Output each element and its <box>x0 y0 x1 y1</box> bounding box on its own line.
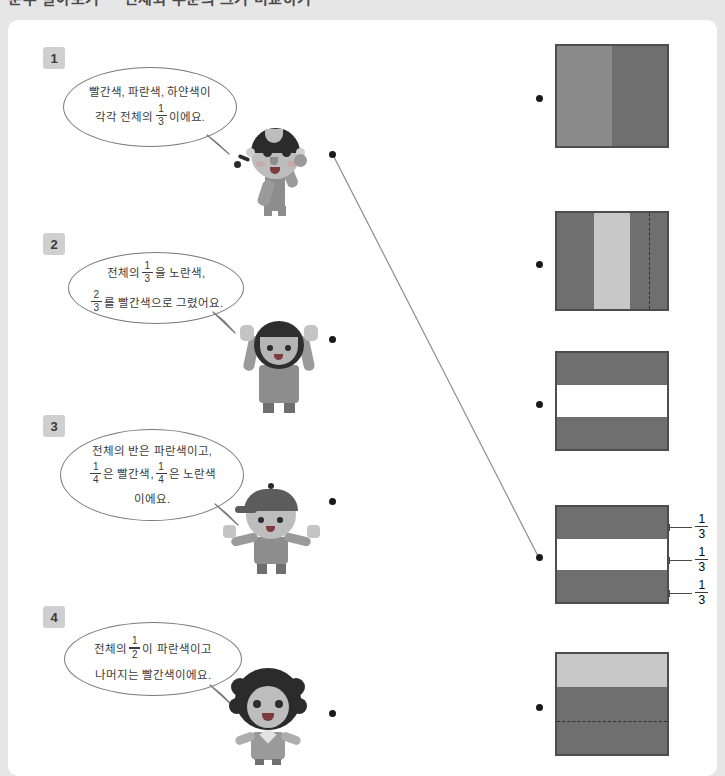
fraction-one-fourth-2: 1 4 <box>156 462 167 485</box>
speech-bubble-1-tail <box>205 133 235 157</box>
speech-bubble-2-line-2: 2 3 를 빨간색으로 그렸어요. <box>89 291 224 314</box>
figure-e-band-1 <box>557 654 667 687</box>
callout-leader-line <box>670 593 692 594</box>
speech-bubble-3-line-1: 전체의 반은 파란색이고, <box>92 445 212 457</box>
figure-a-band-1 <box>557 46 612 146</box>
item-badge-3: 3 <box>43 415 65 437</box>
fraction-one-half: 1 2 <box>129 636 140 659</box>
speech-text: 를 빨간색으로 그렸어요. <box>104 297 224 309</box>
connector-line-1-to-d <box>333 155 539 558</box>
left-dot-1[interactable] <box>329 151 336 158</box>
character-boy-arms-up <box>230 303 330 413</box>
item-badge-4: 4 <box>43 606 65 628</box>
figure-d-band-2 <box>557 539 667 571</box>
speech-bubble-4-line-1: 전체의 1 2 이 파란색이고 <box>94 637 211 660</box>
page-header-title: 분수 알아보기 ㅡ 전체와 부분의 크기 비교하기 <box>8 0 312 8</box>
speech-text: 전체의 <box>94 643 127 655</box>
speech-text: 빨간색, 파란색, 하얀색이 <box>89 86 212 98</box>
fraction-one-third: 1 3 <box>142 261 153 284</box>
figure-d-callout-2: 1 3 <box>669 547 710 574</box>
speech-bubble-2-line-1: 전체의 1 3 을 노란색, <box>107 262 205 285</box>
figure-b-dashed-guide <box>649 213 650 309</box>
worksheet-card: 1 빨간색, 파란색, 하얀색이 각각 전체의 1 3 이에요. <box>8 20 717 776</box>
speech-bubble-4-line-2: 나머지는 빨간색이에요. <box>95 669 211 681</box>
speech-text: 을 노란색, <box>155 267 205 279</box>
character-girl-braids-waving <box>234 120 326 216</box>
fraction-one-third: 1 3 <box>695 546 708 573</box>
right-dot-c[interactable] <box>536 401 543 408</box>
speech-text: 이에요. <box>169 111 205 123</box>
figure-d-band-1 <box>557 507 667 539</box>
figure-c[interactable] <box>555 351 669 451</box>
speech-text: 이에요. <box>134 493 170 505</box>
speech-text: 이 파란색이고 <box>142 643 211 655</box>
figure-a[interactable] <box>555 44 669 148</box>
character-boy-cap-arms-out <box>213 475 328 575</box>
figure-c-band-2 <box>557 385 667 417</box>
speech-text: 은 빨간색, <box>103 468 153 480</box>
figure-b-band-1 <box>557 213 594 309</box>
fraction-one-fourth: 1 4 <box>90 462 101 485</box>
figure-a-band-2 <box>612 46 667 146</box>
fraction-one-third: 1 3 <box>695 513 708 540</box>
speech-bubble-3-line-3: 이에요. <box>134 493 170 505</box>
speech-text: 전체의 <box>107 267 140 279</box>
callout-leader-line <box>670 560 692 561</box>
figure-d-band-3 <box>557 570 667 602</box>
fraction-two-thirds: 2 3 <box>91 290 102 313</box>
right-dot-a[interactable] <box>536 95 543 102</box>
speech-text: 각각 전체의 <box>95 111 153 123</box>
item-badge-1: 1 <box>43 47 65 69</box>
figure-b-band-2 <box>594 213 631 309</box>
speech-bubble-1-line-2: 각각 전체의 1 3 이에요. <box>95 105 204 128</box>
figure-e-dashed-guide <box>557 721 667 722</box>
fraction-one-third: 1 3 <box>695 579 708 606</box>
speech-text: 전체의 반은 파란색이고, <box>92 445 212 457</box>
left-dot-3[interactable] <box>329 498 336 505</box>
fraction-one-third: 1 3 <box>156 104 167 127</box>
callout-leader-line <box>670 527 692 528</box>
figure-d[interactable] <box>555 505 669 604</box>
figure-b[interactable] <box>555 211 669 311</box>
character-girl-curly-hair <box>213 660 323 765</box>
right-dot-e[interactable] <box>536 704 543 711</box>
left-dot-4[interactable] <box>329 710 336 717</box>
speech-text: 은 노란색 <box>169 468 216 480</box>
right-dot-b[interactable] <box>536 261 543 268</box>
figure-c-band-1 <box>557 353 667 385</box>
figure-c-band-3 <box>557 417 667 449</box>
figure-e[interactable] <box>555 652 669 756</box>
figure-d-callout-1: 1 3 <box>669 514 710 541</box>
right-dot-d[interactable] <box>536 554 543 561</box>
speech-bubble-1-line-1: 빨간색, 파란색, 하얀색이 <box>89 86 212 98</box>
speech-bubble-3-line-2: 1 4 은 빨간색, 1 4 은 노란색 <box>88 463 216 486</box>
left-dot-2[interactable] <box>329 336 336 343</box>
figure-d-callout-3: 1 3 <box>669 580 710 607</box>
speech-text: 나머지는 빨간색이에요. <box>95 669 211 681</box>
page-header-strip: 분수 알아보기 ㅡ 전체와 부분의 크기 비교하기 <box>0 0 725 12</box>
item-badge-2: 2 <box>43 233 65 255</box>
